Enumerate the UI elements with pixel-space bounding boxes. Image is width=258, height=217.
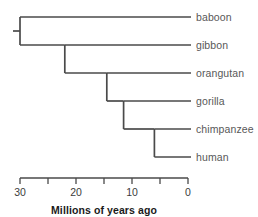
taxon-label-gibbon: gibbon [196, 40, 228, 51]
taxon-label-chimpanzee: chimpanzee [196, 124, 254, 135]
axis-tick-label-30: 30 [14, 187, 26, 198]
axis-tick-label-10: 10 [126, 187, 138, 198]
taxon-label-gorilla: gorilla [196, 96, 225, 107]
phylogenetic-tree-figure: baboongibbonorangutangorillachimpanzeehu… [0, 0, 258, 217]
tree-branches [13, 17, 191, 157]
axis-tick-label-0: 0 [185, 187, 191, 198]
taxon-label-human: human [196, 152, 229, 163]
axis-title: Millions of years ago [51, 205, 157, 216]
time-axis [20, 178, 188, 184]
axis-tick-label-20: 20 [70, 187, 82, 198]
tree-diagram [0, 0, 258, 217]
taxon-label-baboon: baboon [196, 12, 232, 23]
taxon-label-orangutan: orangutan [196, 68, 244, 79]
